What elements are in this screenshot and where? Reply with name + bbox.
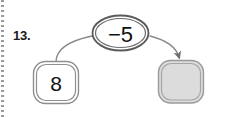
operator-value-text: −5 [108, 22, 133, 47]
worksheet-problem: 13. 8 −5 [0, 0, 225, 118]
output-arrow-connector [150, 36, 179, 57]
number-machine-diagram: 8 −5 [0, 0, 225, 118]
input-curve-connector [56, 36, 92, 62]
start-value-box: 8 [34, 62, 79, 104]
answer-box-inner-border [162, 64, 201, 101]
operator-ellipse: −5 [93, 16, 149, 51]
answer-value-box[interactable] [159, 61, 204, 104]
start-value-text: 8 [50, 72, 62, 95]
